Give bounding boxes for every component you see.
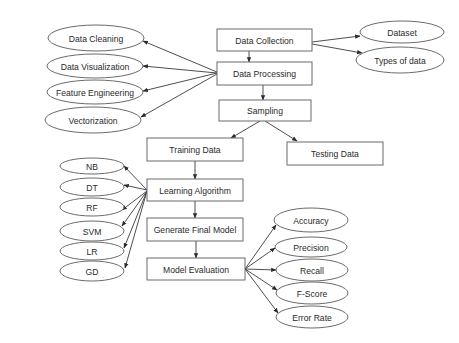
algorithm-label: GD [86,267,99,277]
metric-node-precision: Precision [275,237,347,257]
process-label: Sampling [247,106,283,116]
metric-label: Recall [300,266,324,276]
collection-output-label: Types of data [374,56,426,66]
metric-label: F-Score [297,289,328,299]
process-node-evaluation: Model Evaluation [147,258,245,280]
metric-node-accuracy: Accuracy [274,208,348,232]
arrow-evaluation-to-fscore [245,269,277,290]
process-label: Data Processing [233,69,296,79]
arrow-collection-to-dataset [312,36,360,42]
processing-step-label: Data Visualization [61,62,130,72]
process-node-training: Training Data [147,138,243,161]
metric-label: Precision [293,243,329,253]
arrow-processing-to-feature-eng [143,73,217,91]
processing-step-label: Data Cleaning [69,34,124,44]
processing-step-node-visualization: Data Visualization [47,54,143,78]
algorithm-label: LR [87,247,98,257]
metric-node-error-rate: Error Rate [276,306,348,328]
processing-step-label: Feature Engineering [56,88,134,98]
process-node-sampling: Sampling [219,100,311,121]
process-node-testing: Testing Data [287,142,383,165]
arrow-learning-to-gd [125,191,147,268]
algorithm-node-gd: GD [60,261,124,281]
process-label: Training Data [169,145,220,155]
arrow-sampling-to-testing [265,121,297,141]
collection-output-node-dataset: Dataset [360,21,444,43]
process-label: Model Evaluation [163,265,229,275]
process-node-collection: Data Collection [217,29,312,51]
ml-pipeline-diagram: Data CollectionData ProcessingSamplingTr… [0,0,459,343]
metric-label: Accuracy [293,216,329,226]
algorithm-node-lr: LR [60,242,124,260]
arrow-evaluation-to-accuracy [245,225,276,269]
process-label: Data Collection [235,36,293,46]
algorithm-label: RF [86,203,97,213]
process-label: Learning Algorithm [159,186,231,196]
processing-step-node-cleaning: Data Cleaning [48,25,144,51]
arrow-processing-to-vectorization [141,74,217,117]
process-label: Testing Data [311,149,359,159]
collection-output-node-types: Types of data [356,47,444,73]
arrow-learning-to-nb [124,166,147,190]
arrow-evaluation-to-error-rate [245,269,278,313]
metric-node-fscore: F-Score [276,282,348,304]
process-node-learning: Learning Algorithm [147,179,243,201]
metric-label: Error Rate [292,313,332,323]
arrow-sampling-to-training [231,121,260,138]
processing-step-node-vectorization: Vectorization [45,107,141,133]
processing-step-node-feature-eng: Feature Engineering [47,80,143,104]
collection-output-label: Dataset [387,28,417,38]
algorithm-label: SVM [83,227,102,237]
processing-step-label: Vectorization [68,116,117,126]
arrow-learning-to-svm [122,191,147,226]
algorithm-node-nb: NB [60,158,124,174]
algorithm-label: NB [86,162,98,172]
algorithm-node-svm: SVM [60,221,124,241]
nodes-layer: Data CollectionData ProcessingSamplingTr… [45,21,444,328]
algorithm-label: DT [86,183,98,193]
process-node-processing: Data Processing [217,62,312,85]
process-label: Generate Final Model [154,225,237,235]
arrow-collection-to-types [312,44,362,53]
arrow-evaluation-to-precision [245,248,275,269]
algorithm-node-dt: DT [60,178,124,196]
arrow-evaluation-to-recall [245,269,276,270]
process-node-final-model: Generate Final Model [147,218,243,241]
metric-node-recall: Recall [276,259,348,281]
algorithm-node-rf: RF [60,198,124,216]
